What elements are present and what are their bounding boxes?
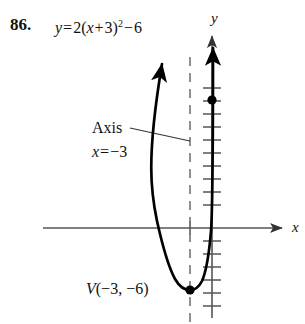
axis-equation-value: −3 xyxy=(110,143,127,160)
problem-number: 86. xyxy=(10,16,31,33)
equation-label: y=2(x+3)2−6 xyxy=(55,20,142,36)
equation-inner-const: 3 xyxy=(105,19,113,36)
parabola-right-branch xyxy=(190,48,213,290)
y-axis-label: y xyxy=(211,11,218,26)
axis-annotation-equation: x=−3 xyxy=(92,144,127,160)
x-axis-label: x xyxy=(292,220,299,235)
vertex-y-value: −6 xyxy=(126,280,143,297)
equation-outer-op: − xyxy=(123,19,134,36)
axis-annotation-word: Axis xyxy=(92,120,122,136)
parabola-figure: 86. y=2(x+3)2−6 Axis x=−3 V(−3, −6) y x xyxy=(0,0,305,324)
parabola-left-branch xyxy=(151,64,190,290)
vertex-label: V(−3, −6) xyxy=(86,281,149,297)
axis-leader-line xyxy=(130,128,190,141)
equation-inner-var: x xyxy=(86,19,93,36)
equation-outer-const: 6 xyxy=(134,19,142,36)
vertex-x-value: −3, xyxy=(101,280,122,297)
point-vertex xyxy=(185,285,194,294)
equation-inner-op: + xyxy=(94,19,105,36)
point-y-intercept xyxy=(207,95,216,104)
equation-coefficient: 2 xyxy=(73,19,81,36)
vertex-close-paren: ) xyxy=(143,280,148,297)
axis-equation-equals: = xyxy=(99,143,110,160)
equation-equals: = xyxy=(62,19,73,36)
vertex-letter: V xyxy=(86,280,96,297)
graph-canvas xyxy=(0,0,305,324)
